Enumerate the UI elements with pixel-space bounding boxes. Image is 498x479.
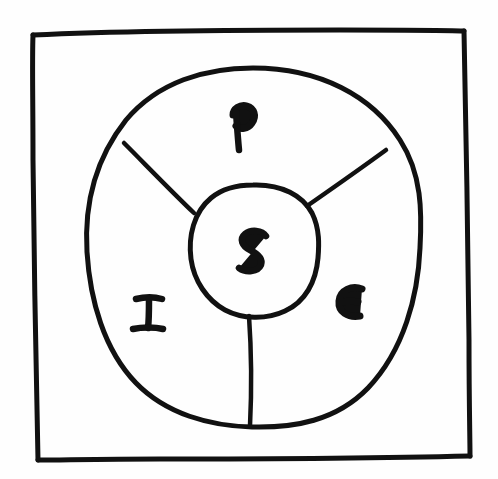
sketch-diagram — [0, 0, 498, 479]
label-e-path — [339, 288, 362, 317]
spoke-bottom — [249, 316, 251, 426]
diagram-canvas: S P I E — [0, 0, 498, 479]
label-i-bottom-serif — [133, 328, 163, 330]
label-p-stem — [236, 112, 239, 150]
label-e-glyph — [339, 288, 362, 317]
label-i-stem — [148, 299, 149, 328]
